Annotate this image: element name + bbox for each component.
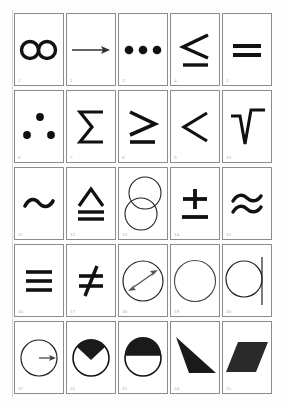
card-number: 19 bbox=[174, 309, 179, 315]
card-20[interactable]: 20 bbox=[222, 244, 272, 317]
card-number: 14 bbox=[174, 232, 179, 238]
card-number: 9 bbox=[174, 155, 177, 161]
card-number: 20 bbox=[226, 309, 231, 315]
card-4[interactable]: 4 bbox=[170, 13, 220, 86]
card-number: 22 bbox=[70, 386, 75, 392]
card-18[interactable]: 18 bbox=[118, 244, 168, 317]
card-number: 10 bbox=[226, 155, 231, 161]
card-15[interactable]: 15 bbox=[222, 167, 272, 240]
equals-icon bbox=[223, 14, 271, 85]
card-number: 2 bbox=[70, 78, 73, 84]
card-number: 8 bbox=[122, 155, 125, 161]
card-number: 17 bbox=[70, 309, 75, 315]
card-23[interactable]: 23 bbox=[118, 321, 168, 394]
card-7[interactable]: 7 bbox=[66, 90, 116, 163]
arrow-right-icon bbox=[67, 14, 115, 85]
card-number: 25 bbox=[226, 386, 231, 392]
circle-diameter-arrow-icon bbox=[119, 245, 167, 316]
card-number: 7 bbox=[70, 155, 73, 161]
card-10[interactable]: 10 bbox=[222, 90, 272, 163]
card-9[interactable]: 9 bbox=[170, 90, 220, 163]
card-grid: 1 2 3 bbox=[14, 13, 276, 396]
card-2[interactable]: 2 bbox=[66, 13, 116, 86]
card-11[interactable]: 11 bbox=[14, 167, 64, 240]
card-5[interactable]: 5 bbox=[222, 13, 272, 86]
filled-parallelogram-icon bbox=[223, 322, 271, 393]
card-14[interactable]: 14 bbox=[170, 167, 220, 240]
card-number: 13 bbox=[122, 232, 127, 238]
card-12[interactable]: 12 bbox=[66, 167, 116, 240]
plus-minus-icon bbox=[171, 168, 219, 239]
card-number: 16 bbox=[18, 309, 23, 315]
card-6[interactable]: 6 bbox=[14, 90, 64, 163]
symbol-card-sheet: 1 2 3 bbox=[0, 0, 288, 407]
card-17[interactable]: 17 bbox=[66, 244, 116, 317]
tilde-icon bbox=[15, 168, 63, 239]
card-number: 6 bbox=[18, 155, 21, 161]
card-19[interactable]: 19 bbox=[170, 244, 220, 317]
card-3[interactable]: 3 bbox=[118, 13, 168, 86]
card-number: 3 bbox=[122, 78, 125, 84]
greater-than-or-equal-icon bbox=[119, 91, 167, 162]
filled-triangle-icon bbox=[171, 322, 219, 393]
card-number: 4 bbox=[174, 78, 177, 84]
three-dots-row-icon bbox=[119, 14, 167, 85]
card-21[interactable]: 21 bbox=[14, 321, 64, 394]
card-number: 18 bbox=[122, 309, 127, 315]
identical-to-icon bbox=[15, 245, 63, 316]
card-number: 11 bbox=[18, 232, 23, 238]
approximately-equal-icon bbox=[223, 168, 271, 239]
two-circles-icon bbox=[119, 168, 167, 239]
circle-outline-icon bbox=[171, 245, 219, 316]
less-than-icon bbox=[171, 91, 219, 162]
card-number: 23 bbox=[122, 386, 127, 392]
circle-half-filled-icon bbox=[119, 322, 167, 393]
card-8[interactable]: 8 bbox=[118, 90, 168, 163]
card-number: 1 bbox=[18, 78, 21, 84]
therefore-icon bbox=[15, 91, 63, 162]
card-25[interactable]: 25 bbox=[222, 321, 272, 394]
not-equal-icon bbox=[67, 245, 115, 316]
card-number: 12 bbox=[70, 232, 75, 238]
delta-equal-icon bbox=[67, 168, 115, 239]
infinity-icon bbox=[15, 14, 63, 85]
radical-icon bbox=[223, 91, 271, 162]
card-22[interactable]: 22 bbox=[66, 321, 116, 394]
card-number: 5 bbox=[226, 78, 229, 84]
card-number: 24 bbox=[174, 386, 179, 392]
card-13[interactable]: 13 bbox=[118, 167, 168, 240]
circle-tangent-line-icon bbox=[223, 245, 271, 316]
circle-wedge-icon bbox=[67, 322, 115, 393]
circle-radius-arrow-icon bbox=[15, 322, 63, 393]
card-16[interactable]: 16 bbox=[14, 244, 64, 317]
card-number: 21 bbox=[18, 386, 23, 392]
card-number: 15 bbox=[226, 232, 231, 238]
card-24[interactable]: 24 bbox=[170, 321, 220, 394]
sigma-icon bbox=[67, 91, 115, 162]
less-than-or-equal-icon bbox=[171, 14, 219, 85]
sheet-edge bbox=[12, 10, 13, 398]
card-1[interactable]: 1 bbox=[14, 13, 64, 86]
